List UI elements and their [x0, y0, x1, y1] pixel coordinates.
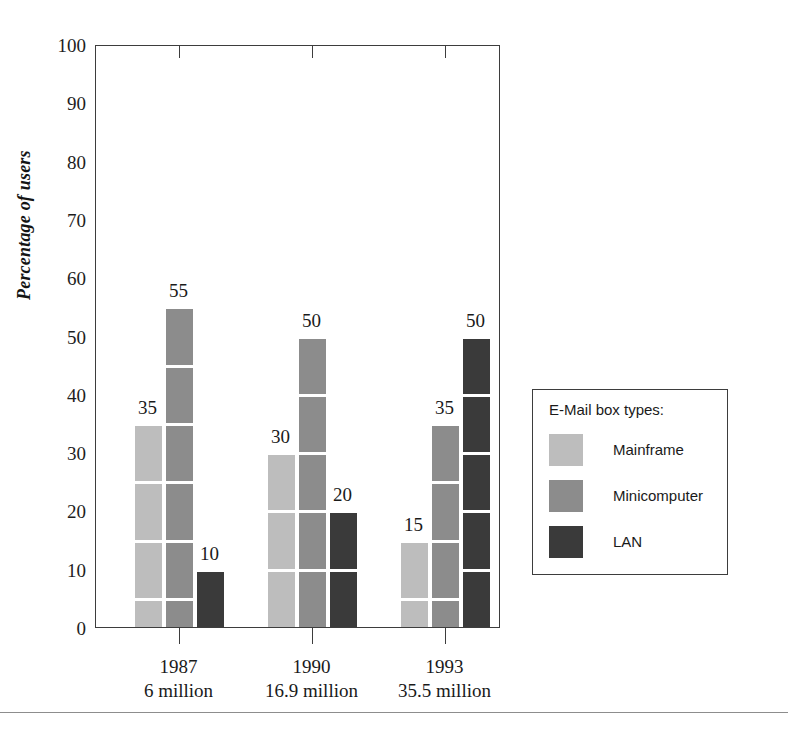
- bar-segment: [135, 601, 162, 627]
- bar-segment: [166, 309, 193, 364]
- bar-segment: [463, 455, 490, 510]
- bar-value-label: 50: [288, 311, 335, 330]
- x-tick-mark: [179, 628, 180, 644]
- bar-segment: [268, 455, 295, 510]
- y-axis-label: Percentage of users: [14, 150, 35, 300]
- bar-value-label: 15: [390, 515, 437, 534]
- y-tick-label: 70: [40, 211, 86, 230]
- x-group-label: 199335.5 million: [365, 655, 525, 704]
- bar-value-label: 20: [319, 485, 366, 504]
- legend-swatch: [549, 434, 583, 466]
- y-tick-label: 50: [40, 328, 86, 347]
- bar-segment: [299, 572, 326, 627]
- x-group-year: 1993: [365, 655, 525, 679]
- bars-container: [96, 46, 499, 627]
- bar: [166, 306, 193, 627]
- bar-segment: [401, 601, 428, 627]
- footer-divider: [0, 712, 788, 713]
- y-tick-label: 20: [40, 502, 86, 521]
- bar-segment: [197, 572, 224, 627]
- bar-segment: [166, 426, 193, 481]
- bar-value-label: 30: [257, 427, 304, 446]
- y-tick-label: 40: [40, 386, 86, 405]
- bar: [330, 510, 357, 627]
- bar-segment: [463, 513, 490, 568]
- legend-title: E-Mail box types:: [549, 401, 664, 418]
- bar: [299, 336, 326, 628]
- bar-segment: [432, 426, 459, 481]
- bar-segment: [135, 426, 162, 481]
- bar: [135, 423, 162, 627]
- bar-segment: [299, 513, 326, 568]
- x-tick-mark: [312, 628, 313, 644]
- chart-figure: Percentage of users 01020304050607080901…: [0, 0, 788, 738]
- y-tick-label: 80: [40, 153, 86, 172]
- bar-segment: [401, 543, 428, 598]
- y-tick-label: 90: [40, 94, 86, 113]
- bar-segment: [135, 543, 162, 598]
- x-tick-mark: [445, 628, 446, 644]
- bar-value-label: 35: [421, 398, 468, 417]
- plot-area: [95, 45, 500, 628]
- bar-segment: [166, 484, 193, 539]
- bar-segment: [135, 484, 162, 539]
- bar: [401, 540, 428, 627]
- bar-segment: [268, 572, 295, 627]
- legend-label: Mainframe: [613, 441, 684, 458]
- bar-segment: [299, 339, 326, 394]
- x-tick-mark-top: [312, 45, 313, 58]
- bar-value-label: 50: [452, 311, 499, 330]
- legend-swatch: [549, 526, 583, 558]
- bar: [197, 569, 224, 627]
- y-tick-label: 30: [40, 444, 86, 463]
- bar-segment: [432, 543, 459, 598]
- legend-label: Minicomputer: [613, 487, 703, 504]
- legend-box: E-Mail box types: MainframeMinicomputerL…: [532, 389, 728, 575]
- x-tick-mark-top: [179, 45, 180, 58]
- y-tick-label: 100: [40, 36, 86, 55]
- y-tick-label: 60: [40, 269, 86, 288]
- legend-swatch: [549, 480, 583, 512]
- bar-value-label: 55: [155, 281, 202, 300]
- bar-value-label: 10: [186, 544, 233, 563]
- y-tick-label: 10: [40, 561, 86, 580]
- bar-value-label: 35: [124, 398, 171, 417]
- y-tick-label: 0: [40, 619, 86, 638]
- bar-segment: [463, 339, 490, 394]
- bar-segment: [268, 513, 295, 568]
- x-tick-mark-top: [445, 45, 446, 58]
- bar-segment: [432, 601, 459, 627]
- bar: [463, 336, 490, 628]
- bar-segment: [330, 513, 357, 568]
- bar-segment: [166, 601, 193, 627]
- legend-label: LAN: [613, 533, 642, 550]
- bar: [268, 452, 295, 627]
- x-group-users: 35.5 million: [365, 679, 525, 703]
- bar-segment: [463, 572, 490, 627]
- bar-segment: [330, 572, 357, 627]
